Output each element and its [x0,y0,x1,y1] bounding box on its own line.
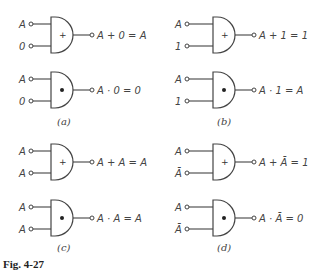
input-terminal [29,22,33,26]
input-label: 1 [175,41,181,52]
and-dot-icon [222,88,226,92]
panel-caption: (c) [57,242,71,253]
output-terminal [90,160,94,164]
input-terminal [29,205,33,209]
input-label: A [174,74,182,85]
and-dot-icon [222,216,226,220]
input-terminal [185,99,189,103]
output-terminal [252,33,256,37]
panel-b: A1+A + 1 = 1A1A · 1 = A(b) [174,17,308,127]
input-terminal [29,149,33,153]
input-label: A [18,74,26,85]
panel-caption: (b) [217,116,231,127]
output-equation: A · 1 = A [258,85,303,96]
logic-gate-diagram: A0+A + 0 = AA0A · 0 = 0(a)A1+A + 1 = 1A1… [0,0,310,274]
input-terminal [185,171,189,175]
and-gate: A1A · 1 = A [174,72,303,108]
input-label: A [18,202,26,213]
input-terminal [185,44,189,48]
input-label: A [18,146,26,157]
panel-caption: (d) [217,242,231,253]
input-terminal [29,227,33,231]
output-equation: A · 0 = 0 [96,85,141,96]
input-label: 1 [175,96,181,107]
input-terminal [185,205,189,209]
input-terminal [185,149,189,153]
or-gate: AĀ+A + Ā = 1 [174,144,309,180]
and-dot-icon [60,216,64,220]
or-gate: A1+A + 1 = 1 [174,17,308,53]
or-gate: AA+A + A = A [18,144,147,180]
output-terminal [90,88,94,92]
input-label: A [18,224,26,235]
input-terminal [29,99,33,103]
input-terminal [185,227,189,231]
input-terminal [185,77,189,81]
input-label: A [174,19,182,30]
input-label: Ā [174,223,182,235]
panel-a: A0+A + 0 = AA0A · 0 = 0(a) [18,17,147,127]
output-equation: A + 0 = A [96,30,147,41]
output-terminal [90,33,94,37]
input-terminal [29,171,33,175]
output-terminal [252,160,256,164]
input-label: A [174,202,182,213]
output-terminal [252,216,256,220]
and-dot-icon [60,88,64,92]
and-gate: AĀA · Ā = 0 [174,200,303,236]
input-terminal [29,77,33,81]
output-equation: A · A = A [96,213,142,224]
input-label: 0 [19,41,25,52]
output-equation: A + A = A [96,157,147,168]
input-label: 0 [19,96,25,107]
output-terminal [90,216,94,220]
panel-c: AA+A + A = AAAA · A = A(c) [18,144,147,253]
input-terminal [29,44,33,48]
panel-caption: (a) [57,116,71,127]
output-equation: A · Ā = 0 [258,212,303,224]
output-equation: A + 1 = 1 [258,30,308,41]
or-plus-icon: + [59,157,67,167]
or-plus-icon: + [221,157,229,167]
input-label: Ā [174,167,182,179]
input-terminal [185,22,189,26]
input-label: A [18,19,26,30]
output-terminal [252,88,256,92]
or-plus-icon: + [59,30,67,40]
input-label: A [174,146,182,157]
and-gate: A0A · 0 = 0 [18,72,141,108]
or-gate: A0+A + 0 = A [18,17,147,53]
figure-label: Fig. 4-27 [3,258,44,270]
output-equation: A + Ā = 1 [258,156,309,168]
and-gate: AAA · A = A [18,200,142,236]
input-label: A [18,168,26,179]
or-plus-icon: + [221,30,229,40]
panel-d: AĀ+A + Ā = 1AĀA · Ā = 0(d) [174,144,309,253]
